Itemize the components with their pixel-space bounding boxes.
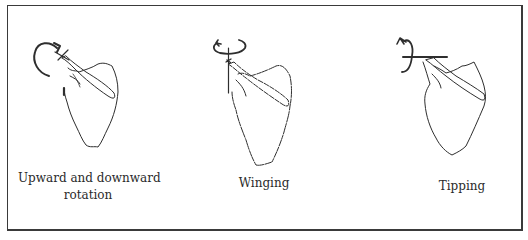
label-line: Tipping bbox=[422, 178, 502, 195]
rotation-arrow bbox=[214, 40, 246, 54]
scapula-spine bbox=[426, 58, 485, 100]
scapula-spine bbox=[228, 62, 289, 106]
scapula-outline bbox=[232, 65, 292, 165]
label-line: rotation bbox=[18, 187, 158, 204]
label-winging: Winging bbox=[224, 175, 304, 192]
scapula-outline bbox=[423, 62, 486, 155]
arrow-head bbox=[397, 38, 406, 44]
label-line: Upward and downward bbox=[18, 170, 158, 187]
arrow-head bbox=[216, 40, 221, 46]
label-upward-downward-rotation: Upward and downward rotation bbox=[18, 170, 158, 204]
rotation-arrow bbox=[34, 43, 57, 76]
panel-upward-downward-rotation bbox=[34, 43, 118, 147]
label-tipping: Tipping bbox=[422, 178, 502, 195]
coracoid-process bbox=[236, 80, 246, 96]
panel-tipping bbox=[397, 38, 486, 155]
panel-winging bbox=[214, 40, 292, 165]
scapula-outline bbox=[64, 63, 118, 147]
coracoid-process bbox=[432, 74, 441, 88]
scapula-spine bbox=[62, 56, 115, 98]
label-line: Winging bbox=[224, 175, 304, 192]
